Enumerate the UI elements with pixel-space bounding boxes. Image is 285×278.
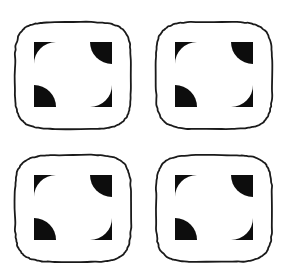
rounded-square-outline (156, 22, 273, 129)
illusory-contour-figure (0, 0, 285, 278)
figure-cell (156, 155, 272, 262)
rounded-square-outline (15, 22, 131, 129)
figure-cell (15, 22, 131, 129)
rounded-square-outline (156, 155, 272, 262)
figure-cell (156, 22, 273, 129)
figure-cell (15, 155, 132, 262)
rounded-square-outline (15, 155, 132, 262)
